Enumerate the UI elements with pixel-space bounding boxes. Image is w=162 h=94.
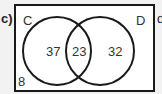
only-c-value: 37 (46, 44, 60, 59)
intersection-value: 23 (72, 44, 86, 59)
set-d-label: D (136, 13, 145, 28)
outside-value: 8 (18, 74, 25, 89)
venn-diagram: C D 37 23 32 8 (0, 0, 162, 94)
only-d-value: 32 (108, 44, 122, 59)
set-c-label: C (23, 13, 32, 28)
